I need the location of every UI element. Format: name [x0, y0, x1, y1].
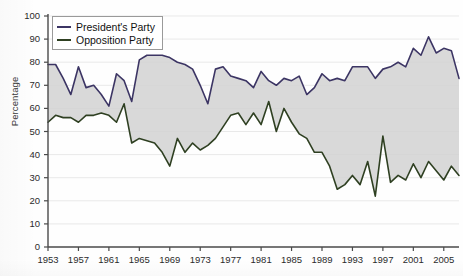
chart-container: Percentage 0102030405060708090100 195319…: [0, 0, 463, 276]
y-axis-tick-label: 20: [18, 196, 40, 206]
x-axis-tick-label: 1973: [185, 255, 215, 265]
x-axis-tick-label: 1961: [94, 255, 124, 265]
x-axis-tick-label: 1969: [155, 255, 185, 265]
x-axis-tick-label: 1957: [63, 255, 93, 265]
x-axis-tick-label: 1981: [246, 255, 276, 265]
y-axis-tick-label: 90: [18, 34, 40, 44]
x-axis-tick-label: 1989: [307, 255, 337, 265]
y-axis-tick-label: 100: [18, 11, 40, 21]
y-axis-tick-label: 0: [18, 242, 40, 252]
y-axis-tick-label: 40: [18, 150, 40, 160]
y-axis-tick-label: 60: [18, 103, 40, 113]
y-axis-tick-label: 50: [18, 127, 40, 137]
legend-label-presidents-party: President's Party: [76, 21, 155, 33]
legend-label-opposition-party: Opposition Party: [76, 34, 154, 46]
legend-swatch-opposition-party: [57, 39, 71, 41]
x-axis-tick-label: 1997: [368, 255, 398, 265]
chart-legend: President's Party Opposition Party: [52, 16, 163, 50]
x-axis-tick-label: 1977: [216, 255, 246, 265]
x-axis-tick-label: 1953: [33, 255, 63, 265]
legend-swatch-presidents-party: [57, 26, 71, 28]
x-axis-tick-label: 2001: [398, 255, 428, 265]
legend-item-presidents-party: President's Party: [57, 20, 155, 33]
y-axis-tick-label: 80: [18, 57, 40, 67]
legend-item-opposition-party: Opposition Party: [57, 33, 155, 46]
x-axis-tick-label: 1985: [277, 255, 307, 265]
y-axis-tick-label: 30: [18, 173, 40, 183]
x-axis-tick-label: 2005: [429, 255, 459, 265]
y-axis-tick-label: 70: [18, 80, 40, 90]
x-axis-tick-label: 1965: [124, 255, 154, 265]
x-axis-tick-label: 1993: [337, 255, 367, 265]
y-axis-tick-label: 10: [18, 219, 40, 229]
